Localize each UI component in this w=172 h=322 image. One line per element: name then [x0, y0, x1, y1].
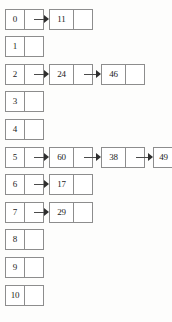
- chain-node-next-cell: [74, 10, 92, 29]
- chain-arrow: [34, 64, 49, 85]
- bucket-pointer-cell: [25, 230, 43, 249]
- bucket-index-label: 0: [6, 10, 25, 29]
- bucket-index-label: 6: [6, 175, 25, 194]
- bucket-pointer-cell: [25, 258, 43, 277]
- bucket-10[interactable]: 10: [5, 285, 44, 306]
- chain-node[interactable]: 17: [49, 174, 93, 195]
- hash-bucket-row: 011: [0, 8, 93, 30]
- bucket-3[interactable]: 3: [5, 91, 44, 112]
- chain-node-value: 60: [50, 148, 74, 167]
- chain-node-value: 24: [50, 65, 74, 84]
- chain-node-next-cell: [74, 175, 92, 194]
- bucket-index-label: 3: [6, 92, 25, 111]
- chain-arrow: [84, 64, 101, 85]
- chain-arrow: [84, 147, 101, 168]
- chain-arrow: [34, 9, 49, 30]
- hash-bucket-row: 9: [0, 256, 44, 278]
- hash-bucket-row: 729: [0, 201, 93, 223]
- chain-node-value: 49: [154, 148, 172, 167]
- bucket-pointer-cell: [25, 286, 43, 305]
- chain-node-value: 38: [102, 148, 126, 167]
- chain-node[interactable]: 29: [49, 202, 93, 223]
- hash-bucket-row: 10: [0, 284, 44, 306]
- bucket-index-label: 2: [6, 65, 25, 84]
- chain-node-next-cell: [74, 203, 92, 222]
- hash-bucket-row: 617: [0, 174, 93, 196]
- bucket-pointer-cell: [25, 120, 43, 139]
- chain-node-value: 17: [50, 175, 74, 194]
- chain-node-value: 29: [50, 203, 74, 222]
- hash-bucket-row: 3: [0, 91, 44, 113]
- hash-table-diagram: 0111224463456038496177298910: [0, 0, 172, 322]
- hash-bucket-row: 5603849: [0, 146, 172, 168]
- hash-bucket-row: 8: [0, 229, 44, 251]
- bucket-index-label: 4: [6, 120, 25, 139]
- hash-bucket-row: 4: [0, 118, 44, 140]
- bucket-index-label: 9: [6, 258, 25, 277]
- bucket-pointer-cell: [25, 92, 43, 111]
- chain-arrow: [34, 202, 49, 223]
- bucket-9[interactable]: 9: [5, 257, 44, 278]
- bucket-pointer-cell: [25, 37, 43, 56]
- hash-bucket-row: 22446: [0, 63, 145, 85]
- bucket-4[interactable]: 4: [5, 119, 44, 140]
- bucket-8[interactable]: 8: [5, 229, 44, 250]
- chain-node[interactable]: 11: [49, 9, 93, 30]
- chain-arrow: [34, 174, 49, 195]
- bucket-index-label: 10: [6, 286, 25, 305]
- chain-node-value: 46: [102, 65, 126, 84]
- bucket-1[interactable]: 1: [5, 36, 44, 57]
- bucket-index-label: 8: [6, 230, 25, 249]
- bucket-index-label: 1: [6, 37, 25, 56]
- chain-node-next-cell: [126, 65, 144, 84]
- chain-arrow: [136, 147, 153, 168]
- chain-arrow: [34, 147, 49, 168]
- chain-node[interactable]: 49: [153, 147, 172, 168]
- hash-bucket-row: 1: [0, 36, 44, 58]
- bucket-index-label: 5: [6, 148, 25, 167]
- chain-node[interactable]: 46: [101, 64, 145, 85]
- chain-node-value: 11: [50, 10, 74, 29]
- bucket-index-label: 7: [6, 203, 25, 222]
